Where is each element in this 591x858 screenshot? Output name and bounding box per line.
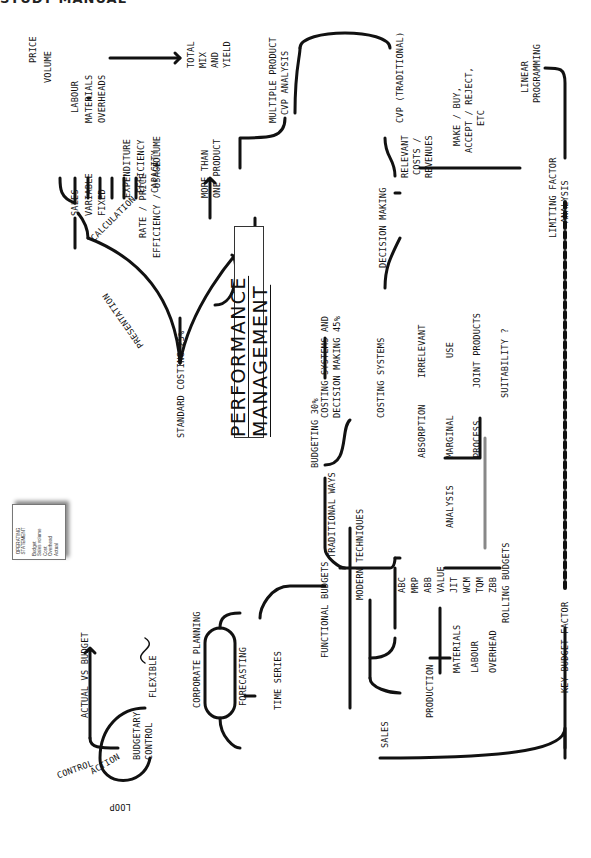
node-cvp-traditional: CVP (TRADITIONAL) xyxy=(395,32,405,123)
node-labour: LABOUR xyxy=(70,81,80,113)
op-heading-line2: STATEMENT xyxy=(21,526,26,556)
node-overheads: OVERHEADS xyxy=(97,75,107,123)
node-sales-budget: SALES xyxy=(380,721,390,748)
node-corporate-planning: CORPORATE PLANNING xyxy=(192,611,202,708)
node-relevant-1: RELEVANT xyxy=(400,135,410,178)
mix-yield-block-chart xyxy=(190,8,230,58)
node-irrelevant: IRRELEVANT xyxy=(417,324,427,378)
node-modern-techniques: MODERN TECHNIQUES xyxy=(355,509,365,600)
node-key-budget-factor: KEY BUDGET FACTOR xyxy=(560,602,570,693)
node-forecasting: FORECASTING xyxy=(238,647,248,706)
node-budgetary-control-2: CONTROL xyxy=(144,722,154,760)
op-row: Actual xyxy=(54,528,59,556)
node-process: PROCESS xyxy=(472,420,482,458)
node-price: PRICE xyxy=(28,36,38,63)
node-make-buy-3: ETC xyxy=(476,110,486,126)
node-technique-tqm: TQM xyxy=(475,577,485,593)
node-limiting-factor-1: LIMITING FACTOR xyxy=(548,157,558,238)
node-time-series: TIME SERIES xyxy=(273,651,283,710)
node-make-buy-2: ACCEPT / REJECT, xyxy=(464,67,474,153)
node-joint-products: JOINT PRODUCTS xyxy=(472,313,482,388)
node-technique-value: VALUE xyxy=(436,566,446,593)
node-prod-overhead: OVERHEAD xyxy=(488,630,498,673)
operating-statement-thumbnail: OPERATING STATEMENT Budget Sales volume … xyxy=(12,504,66,560)
mind-map: PERFORMANCE MANAGEMENT STANDARD COSTING … xyxy=(0,0,591,858)
node-use: USE xyxy=(445,342,455,358)
node-efficiency: EFFICIENCY xyxy=(136,139,146,193)
node-technique-abc: ABC xyxy=(397,577,407,593)
node-flexible: FLEXIBLE xyxy=(148,655,158,698)
node-expenditure: EXPENDITURE xyxy=(122,139,132,198)
node-fixed-volume: VOLUME xyxy=(152,136,162,168)
node-limiting-factor-2: ANALYSIS xyxy=(560,180,570,223)
connector-lines xyxy=(0,0,591,858)
node-analysis: ANALYSIS xyxy=(445,485,455,528)
node-technique-zbb: ZBB xyxy=(488,577,498,593)
node-costing-systems: COSTING SYSTEMS xyxy=(376,337,386,418)
node-materials: MATERIALS xyxy=(84,75,94,123)
node-prod-materials: MATERIALS xyxy=(452,625,462,673)
node-marginal: MARGINAL xyxy=(445,415,455,458)
node-relevant-2: COSTS / xyxy=(412,137,422,175)
node-technique-jit: JIT xyxy=(449,577,459,593)
node-decision-making: DECISION MAKING xyxy=(378,187,388,268)
node-sales-var: SALES xyxy=(70,189,80,216)
node-traditional-ways: TRADITIONAL WAYS xyxy=(327,472,337,558)
operating-statement-rows: Budget Sales volume Cost Overhead Actual xyxy=(32,528,59,556)
node-budgetary-control-1: BUDGETARY xyxy=(132,712,142,760)
node-relevant-3: REVENUES xyxy=(424,135,434,178)
operating-statement-heading: OPERATING STATEMENT xyxy=(16,526,27,556)
central-topic-label: PERFORMANCE MANAGEMENT xyxy=(227,227,271,437)
node-functional-budgets: FUNCTIONAL BUDGETS xyxy=(320,561,330,658)
node-production: PRODUCTION xyxy=(425,664,435,718)
node-suitability: SUITABILITY ? xyxy=(500,328,510,398)
node-technique-wcm: WCM xyxy=(462,577,472,593)
node-technique-abb: ABB xyxy=(423,577,433,593)
node-linear-programming-2: PROGRAMMING xyxy=(532,44,542,103)
node-more-than-one-product-2: ONE PRODUCT xyxy=(212,139,222,198)
central-topic: PERFORMANCE MANAGEMENT xyxy=(234,226,264,438)
node-absorption: ABSORPTION xyxy=(417,404,427,458)
node-more-than-one-product-1: MORE THAN xyxy=(200,150,210,198)
node-costing-decision-2: DECISION MAKING 45% xyxy=(332,316,342,418)
node-variable-var: VARIABLE xyxy=(84,173,94,216)
node-fixed-var: FIXED xyxy=(97,189,107,216)
node-make-buy-1: MAKE / BUY, xyxy=(452,87,462,146)
node-control-loop-loop: LOOP xyxy=(109,802,131,812)
node-volume: VOLUME xyxy=(43,51,53,83)
node-prod-labour: LABOUR xyxy=(470,641,480,673)
node-standard-costing: STANDARD COSTING 25% xyxy=(176,331,186,438)
node-costing-decision-1: COSTING SYSTEMS AND xyxy=(320,316,330,418)
node-technique-mrp: MRP xyxy=(410,577,420,593)
node-actual-vs-budget: ACTUAL VS BUDGET xyxy=(80,632,90,718)
node-linear-programming-1: LINEAR xyxy=(520,61,530,93)
node-budgeting: BUDGETING 30% xyxy=(310,398,320,468)
node-technique-rolling: ROLLING BUDGETS xyxy=(501,542,511,623)
node-multiple-product-cvp-1: MULTIPLE PRODUCT xyxy=(268,37,278,123)
node-multiple-product-cvp-2: CVP ANALYSIS xyxy=(280,51,290,116)
